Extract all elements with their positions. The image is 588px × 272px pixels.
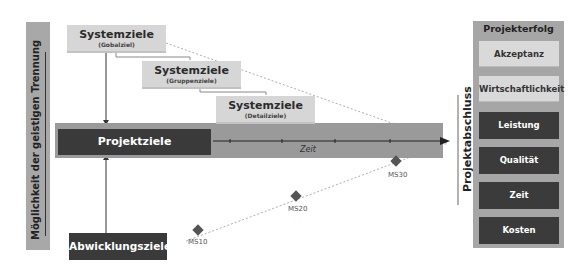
system-goal-title: Systemziele	[142, 61, 241, 77]
success-item-leistung: Leistung	[479, 112, 559, 139]
system-goal-detail: Systemziele (Detailziele)	[216, 96, 315, 124]
success-item-qualitaet: Qualität	[479, 147, 559, 174]
system-goal-group: Systemziele (Gruppenziele)	[142, 61, 241, 89]
time-label: Zeit	[300, 145, 316, 154]
project-success-panel: Projekterfolg Akzeptanz Wirtschaftlichke…	[473, 21, 564, 248]
success-item-zeit: Zeit	[479, 182, 559, 209]
success-item-wirtschaftlichkeit: Wirtschaftlichkeit	[479, 76, 559, 102]
project-success-title: Projekterfolg	[473, 23, 564, 34]
execution-goals-box: Abwicklungsziele	[69, 233, 167, 260]
milestone-ms10-label: MS10	[188, 238, 207, 246]
system-goal-title: Systemziele	[67, 25, 166, 41]
system-goal-global: Systemziele (Gobalziel)	[67, 25, 166, 53]
system-goal-title: Systemziele	[216, 96, 315, 112]
milestone-ms30-label: MS30	[388, 171, 407, 179]
system-goal-subtitle: (Gruppenziele)	[142, 77, 241, 84]
milestone-ms20-label: MS20	[288, 205, 307, 213]
system-goal-subtitle: (Gobalziel)	[67, 41, 166, 48]
success-item-kosten: Kosten	[479, 217, 559, 244]
system-goal-subtitle: (Detailziele)	[216, 112, 315, 119]
project-goals-box: Projektziele	[58, 129, 211, 155]
success-item-akzeptanz: Akzeptanz	[479, 41, 559, 67]
